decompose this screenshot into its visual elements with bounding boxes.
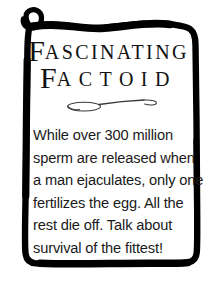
title-line-2: FACTOID xyxy=(0,65,217,92)
fascinating-factoid-card: FASCINATING FACTOID While over 300 milli… xyxy=(0,0,217,286)
flourish-right-hook xyxy=(144,100,156,105)
card-title: FASCINATING FACTOID xyxy=(0,38,217,92)
body-line: rest die off. Talk about xyxy=(33,214,185,237)
title-line-1: FASCINATING xyxy=(0,38,217,64)
body-line: sperm are released when xyxy=(33,147,185,170)
body-line: fertilizes the egg. All the xyxy=(33,192,185,215)
body-line: a man ejaculates, only one xyxy=(33,169,185,192)
body-line: survival of the fittest! xyxy=(33,237,185,260)
flourish-tail xyxy=(99,100,144,105)
flourish-ornament-icon xyxy=(58,96,162,118)
title-rest-2: ACTOID xyxy=(57,68,177,90)
title-rest-1: ASCINATING xyxy=(45,41,189,63)
title-dropcap-2: F xyxy=(40,61,57,94)
card-body-text: While over 300 million sperm are release… xyxy=(33,124,185,260)
body-line: While over 300 million xyxy=(33,124,185,147)
